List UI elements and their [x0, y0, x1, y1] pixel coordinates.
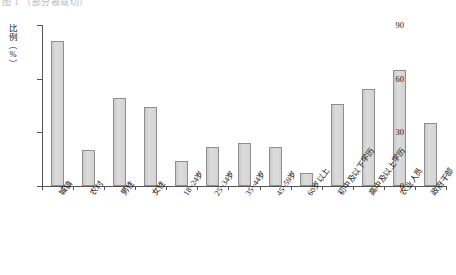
x-axis-tick-4 [197, 186, 198, 190]
figure-caption-strip: 图 1 （部分被裁切） [0, 0, 452, 9]
y-axis-tick-label-60: 60 [396, 75, 405, 84]
bar-10[interactable] [362, 89, 375, 186]
y-axis-tick-label-90: 90 [396, 21, 405, 30]
x-axis-tick-10 [384, 186, 385, 190]
y-axis-tick-90 [37, 25, 42, 26]
bar-2[interactable] [113, 98, 126, 186]
bar-12[interactable] [424, 123, 437, 186]
x-axis-tick-6 [260, 186, 261, 190]
bar-9[interactable] [331, 104, 344, 186]
x-axis-tick-origin [42, 186, 43, 190]
y-axis-tick-60 [37, 79, 42, 80]
figure-caption: 图 1 （部分被裁切） [2, 0, 89, 8]
y-axis-title: 比 例 （ % ） [6, 24, 20, 67]
y-axis-tick-label-30: 30 [396, 128, 405, 137]
x-axis-tick-8 [322, 186, 323, 190]
x-axis-tick-5 [228, 186, 229, 190]
x-axis-tick-3 [166, 186, 167, 190]
x-axis-tick-1 [104, 186, 105, 190]
x-axis-tick-11 [415, 186, 416, 190]
x-axis-tick-0 [73, 186, 74, 190]
y-axis-title-char-4: ） [9, 56, 18, 70]
x-axis-tick-9 [353, 186, 354, 190]
bar-3[interactable] [144, 107, 157, 186]
y-axis-title-char-2: （ [9, 39, 18, 53]
y-axis-tick-30 [37, 132, 42, 133]
x-axis-tick-7 [291, 186, 292, 190]
x-axis-tick-12 [446, 186, 447, 190]
x-axis-tick-2 [135, 186, 136, 190]
bar-0[interactable] [51, 41, 64, 186]
